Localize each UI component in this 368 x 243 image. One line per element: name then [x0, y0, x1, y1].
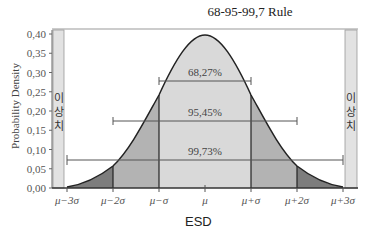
x-tick: μ+3σ	[330, 194, 355, 206]
y-tick: 0,30	[27, 67, 47, 79]
y-tick: 0,05	[27, 163, 47, 175]
band-label-68: 68,27%	[188, 66, 222, 78]
outlier-right-c2: 상	[346, 106, 356, 119]
region-tail-right	[297, 30, 343, 188]
x-tick: μ−σ	[149, 194, 169, 206]
x-tick: μ+σ	[241, 194, 261, 206]
x-tick: μ−2σ	[100, 194, 125, 206]
y-tick: 0,20	[27, 105, 47, 117]
outlier-left-c2: 상	[54, 106, 64, 119]
outlier-right-c3: 치	[346, 120, 356, 133]
outlier-left-c1: 이	[54, 92, 64, 105]
band-label-99: 99,73%	[188, 145, 222, 157]
y-tick: 0,10	[27, 144, 47, 156]
x-tick: μ−3σ	[54, 194, 79, 206]
y-tick: 0,00	[27, 182, 47, 194]
y-tick: 0,25	[27, 86, 47, 98]
y-tick: 0,15	[27, 124, 47, 136]
band-label-95: 95,45%	[188, 106, 222, 118]
outlier-right-c1: 이	[346, 92, 356, 105]
y-tick: 0,35	[27, 47, 47, 59]
x-tick: μ	[201, 194, 208, 206]
x-tick: μ+2σ	[284, 194, 309, 206]
chart-plot: 68,27% 95,45% 99,73% 이 상 치 이 상 치 0,00 0,…	[0, 0, 368, 243]
y-tick: 0,40	[27, 28, 47, 40]
outlier-left-c3: 치	[54, 120, 64, 133]
region-tail-left	[67, 30, 113, 188]
